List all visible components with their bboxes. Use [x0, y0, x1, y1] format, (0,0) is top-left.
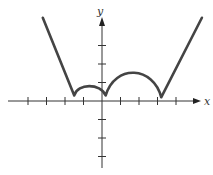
function-graph: x y — [0, 0, 213, 175]
y-axis-label: y — [96, 5, 104, 18]
y-axis-arrow-icon — [99, 17, 105, 26]
x-axis-label: x — [204, 95, 211, 108]
x-axis-arrow-icon — [193, 98, 201, 104]
x-axis: x — [8, 95, 211, 108]
function-curve — [43, 18, 202, 98]
